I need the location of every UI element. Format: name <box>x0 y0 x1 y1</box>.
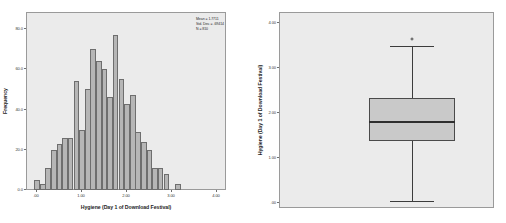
histogram-x-tick-label: 1.00 <box>77 193 85 198</box>
boxplot-y-tick-mark <box>277 112 279 113</box>
histogram-bar <box>147 150 153 190</box>
histogram-y-tick-mark <box>24 189 26 190</box>
histogram-y-tick-label: 60.0 <box>12 66 23 71</box>
boxplot-graphics <box>280 13 493 207</box>
stat-n: N = 810 <box>196 27 224 32</box>
histogram-y-tick-label: 40.0 <box>12 106 23 111</box>
histogram-x-tick-mark <box>216 190 217 192</box>
histogram-bar <box>102 69 108 190</box>
boxplot-upper-whisker-cap <box>390 46 435 47</box>
histogram-x-tick-mark <box>126 190 127 192</box>
histogram-bar <box>113 35 119 190</box>
boxplot-y-tick-label: 2.00 <box>264 109 276 114</box>
histogram-y-tick-mark <box>24 149 26 150</box>
histogram-x-tick-mark <box>36 190 37 192</box>
histogram-bar <box>90 49 96 190</box>
boxplot-y-tick-mark <box>277 157 279 158</box>
boxplot-y-tick-label: .00 <box>264 199 276 204</box>
boxplot-y-tick-mark <box>277 202 279 203</box>
histogram-bar <box>164 174 170 190</box>
histogram-statistics-annotation: Mean = 1.7711 Std. Dev. = .69414 N = 810 <box>196 17 224 32</box>
histogram-x-tick-label: 2.00 <box>122 193 130 198</box>
histogram-bar <box>79 130 85 190</box>
histogram-bar <box>68 138 74 190</box>
histogram-bar <box>34 180 40 190</box>
histogram-x-tick-mark <box>81 190 82 192</box>
histogram-bar <box>175 184 181 190</box>
histogram-panel: 0.020.040.060.080.0 .001.002.003.004.00 … <box>0 0 253 223</box>
histogram-x-tick-label: .00 <box>33 193 38 198</box>
boxplot-y-tick-mark <box>277 22 279 23</box>
boxplot-panel: 4.003.002.001.00.00 Hygiene (Day 1 of Do… <box>253 0 506 223</box>
boxplot-box <box>369 98 454 141</box>
histogram-bar <box>135 132 141 190</box>
histogram-y-axis-title: Frequency <box>2 88 8 114</box>
histogram-bar <box>57 144 63 190</box>
boxplot-y-tick-label: 4.00 <box>264 19 276 24</box>
histogram-bar <box>45 168 51 190</box>
boxplot-y-axis-title: Hygiene (Day 1 of Download Festival) <box>257 65 263 155</box>
histogram-y-tick-mark <box>24 68 26 69</box>
histogram-y-tick-label: 0.0 <box>12 187 23 192</box>
boxplot-lower-whisker-cap <box>390 201 435 202</box>
histogram-bar <box>158 168 164 190</box>
histogram-y-tick-label: 80.0 <box>12 26 23 31</box>
histogram-x-tick-label: 3.00 <box>167 193 175 198</box>
histogram-bars <box>27 13 225 190</box>
boxplot-upper-whisker <box>412 46 413 98</box>
histogram-x-tick-mark <box>171 190 172 192</box>
boxplot-y-tick-label: 1.00 <box>264 154 276 159</box>
boxplot-lower-whisker <box>412 141 413 201</box>
boxplot-y-tick-mark <box>277 67 279 68</box>
spss-output-figure: 0.020.040.060.080.0 .001.002.003.004.00 … <box>0 0 506 223</box>
boxplot-outlier-marker <box>411 38 414 41</box>
histogram-y-tick-label: 20.0 <box>12 146 23 151</box>
boxplot-y-tick-label: 3.00 <box>264 64 276 69</box>
histogram-y-tick-mark <box>24 28 26 29</box>
boxplot-median-line <box>369 121 454 122</box>
histogram-x-tick-label: 4.00 <box>212 193 220 198</box>
histogram-bar <box>124 104 130 190</box>
histogram-x-axis-title: Hygiene (Day 1 of Download Festival) <box>81 204 171 210</box>
histogram-y-tick-mark <box>24 109 26 110</box>
